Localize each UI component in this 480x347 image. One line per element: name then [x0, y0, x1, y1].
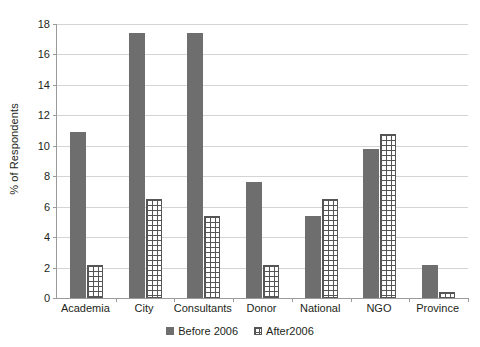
bar-before-2006 — [187, 33, 203, 298]
bar-group — [57, 24, 116, 298]
hatched-white-swatch — [254, 327, 262, 335]
x-axis-tick-label: NGO — [366, 302, 391, 314]
y-axis-tick-label: 2 — [44, 262, 50, 273]
x-axis-tick-label: Donor — [247, 302, 277, 314]
x-axis-tickmark — [468, 298, 469, 302]
y-axis-tick-label: 8 — [44, 171, 50, 182]
y-axis-tick-label: 12 — [38, 110, 50, 121]
x-axis-tick-label: Academia — [61, 302, 110, 314]
x-axis-tick-label: Consultants — [174, 302, 232, 314]
legend-entry: Before 2006 — [166, 325, 238, 337]
bar-after-2006 — [87, 265, 103, 298]
bar-before-2006 — [129, 33, 145, 298]
y-axis-tick-label: 10 — [38, 140, 50, 151]
x-axis-tick-label: City — [135, 302, 154, 314]
y-axis-tickmark — [53, 298, 57, 299]
bar-after-2006 — [439, 292, 455, 298]
plot-area — [56, 24, 468, 299]
bar-group — [409, 24, 468, 298]
y-axis-tick-label: 18 — [38, 19, 50, 30]
y-axis-tick-label: 4 — [44, 232, 50, 243]
bar-after-2006 — [204, 216, 220, 298]
y-axis-title-label: % of Respondents — [8, 103, 20, 195]
bar-group — [292, 24, 351, 298]
x-axis-tick-label: National — [300, 302, 340, 314]
bars-layer — [57, 24, 468, 298]
bar-before-2006 — [422, 265, 438, 298]
x-axis-tick-labels: AcademiaCityConsultantsDonorNationalNGOP… — [56, 302, 467, 320]
solid-gray-swatch — [166, 327, 174, 335]
y-axis-tick-label: 14 — [38, 79, 50, 90]
y-axis-tick-labels: 024681012141618 — [22, 24, 50, 298]
x-axis-tick-label: Province — [416, 302, 459, 314]
bar-before-2006 — [70, 132, 86, 298]
y-axis-tick-label: 6 — [44, 201, 50, 212]
legend-label: After2006 — [266, 325, 314, 337]
bar-group — [233, 24, 292, 298]
bar-after-2006 — [263, 265, 279, 298]
bar-after-2006 — [322, 199, 338, 298]
legend-label: Before 2006 — [178, 325, 238, 337]
legend-entry: After2006 — [254, 325, 314, 337]
bar-before-2006 — [363, 149, 379, 298]
bar-chart: % of Respondents 024681012141618 Academi… — [0, 0, 480, 347]
bar-before-2006 — [246, 182, 262, 298]
chart-legend: Before 2006After2006 — [0, 325, 480, 337]
bar-before-2006 — [305, 216, 321, 298]
bar-after-2006 — [380, 134, 396, 298]
bar-group — [116, 24, 175, 298]
bar-group — [174, 24, 233, 298]
bar-group — [351, 24, 410, 298]
y-axis-tick-label: 0 — [44, 293, 50, 304]
bar-after-2006 — [146, 199, 162, 298]
y-axis-tick-label: 16 — [38, 49, 50, 60]
